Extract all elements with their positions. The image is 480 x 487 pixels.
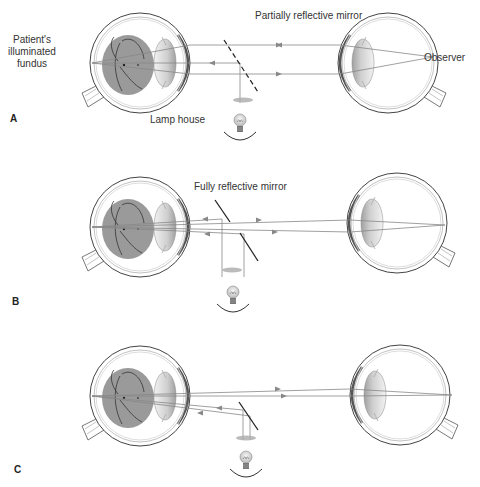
lamp-house-label: Lamp house	[150, 114, 205, 126]
patient-fundus-label: Patient's illuminated fundus	[4, 34, 60, 70]
panel-letter-c: C	[14, 464, 21, 475]
ophthalmoscope-diagram	[0, 0, 480, 487]
panel-letter-a: A	[10, 113, 17, 124]
condenser-lens	[233, 98, 253, 103]
condenser-lens	[222, 268, 242, 273]
partially-reflective-mirror-label: Partially reflective mirror	[255, 10, 362, 22]
lamp-house-icon	[224, 114, 256, 140]
condenser-lens	[236, 436, 256, 441]
fully-reflective-mirror-lower	[240, 233, 258, 261]
fully-reflective-mirror	[239, 402, 258, 430]
lamp-house-icon	[217, 286, 249, 312]
fully-reflective-mirror-upper	[215, 200, 230, 222]
panel-a	[82, 13, 446, 140]
lamp-house-icon	[230, 451, 262, 477]
panel-c	[82, 345, 458, 477]
partially-reflective-mirror	[224, 40, 258, 92]
fully-reflective-mirror-label: Fully reflective mirror	[194, 181, 287, 193]
observer-label: Observer	[424, 52, 465, 64]
panel-letter-b: B	[12, 296, 19, 307]
panel-b	[82, 173, 455, 312]
